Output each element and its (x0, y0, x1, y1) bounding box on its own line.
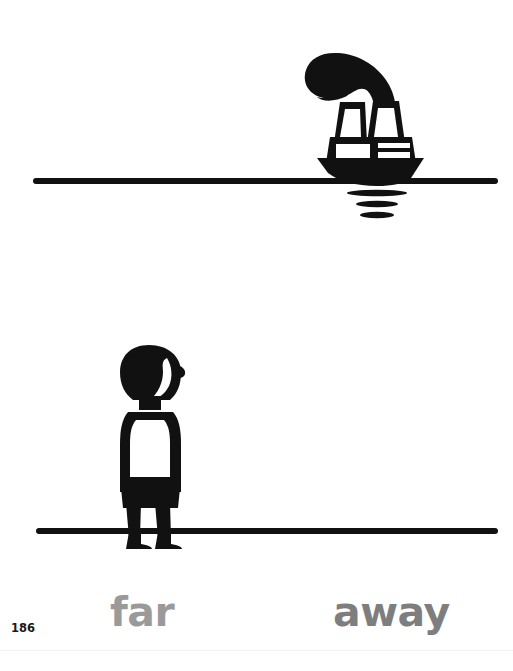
page-bottom-rule (0, 650, 513, 651)
illustration-svg (0, 0, 513, 671)
reflection-ripple-3 (360, 212, 394, 218)
illustration-area (0, 0, 513, 671)
person-foot-left-shape (126, 532, 152, 549)
horizon-line (33, 178, 498, 184)
boat-scene-group (33, 53, 498, 218)
deckhouse-window-right-upper (378, 143, 410, 148)
person-scene-group (36, 345, 498, 549)
page-number: 186 (11, 621, 35, 635)
person-foot-right-shape (155, 532, 182, 549)
reflection-ripple-2 (356, 201, 398, 208)
person-nose-shape (175, 365, 185, 378)
picture-book-page: far away 186 (0, 0, 513, 671)
caption-word-away: away (333, 592, 450, 633)
reflection-ripple-1 (347, 190, 407, 197)
caption-word-far: far (110, 592, 174, 633)
person-neck-shape (139, 396, 161, 410)
person-head-shape (120, 345, 181, 400)
ground-line (36, 528, 498, 534)
deckhouse-window-right-lower (378, 152, 410, 159)
deckhouse-window-left (336, 144, 370, 159)
funnel-right-highlight (374, 108, 398, 137)
person-shirt-fill (130, 420, 170, 477)
